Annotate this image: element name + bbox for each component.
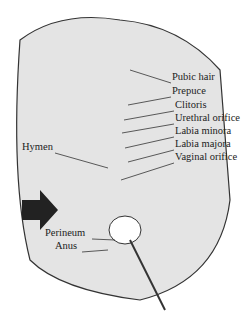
label-perineum: Perineum [45, 227, 85, 239]
label-hymen: Hymen [22, 141, 53, 153]
label-pubic-hair: Pubic hair [172, 71, 215, 83]
label-labia-minora: Labia minora [175, 125, 231, 137]
label-labia-majora: Labia majora [175, 138, 231, 150]
label-clitoris: Clitoris [175, 99, 207, 111]
label-prepuce: Prepuce [172, 85, 206, 97]
diagram-canvas: Pubic hair Prepuce Clitoris Urethral ori… [0, 0, 247, 315]
label-urethral-orifice: Urethral orifice [175, 112, 240, 124]
label-anus: Anus [55, 240, 77, 252]
label-vaginal-orifice: Vaginal orifice [175, 151, 237, 163]
